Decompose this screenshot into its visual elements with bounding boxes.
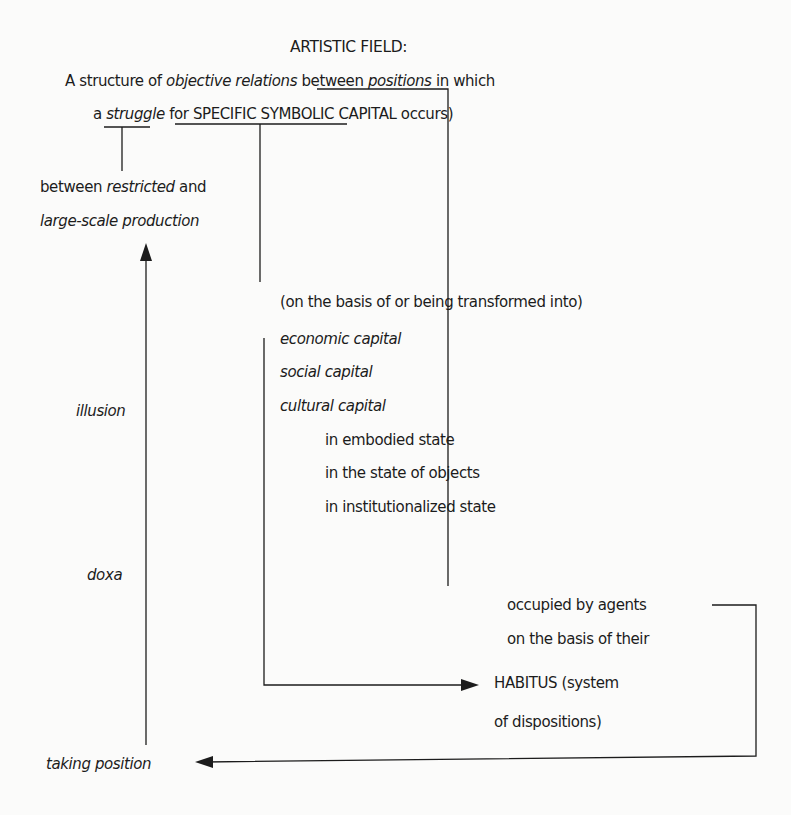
struggle-branch-line-1: between restricted and xyxy=(40,177,206,197)
definition-text: for xyxy=(165,105,193,123)
definition-text: occurs) xyxy=(397,105,454,123)
arrow-left-icon xyxy=(195,756,213,768)
definition-line-2: a struggle for SPECIFIC SYMBOLIC CAPITAL… xyxy=(93,104,453,124)
definition-text: between xyxy=(297,72,368,90)
taking-position-label: taking position xyxy=(46,754,151,774)
symbolic-capital-term: SPECIFIC SYMBOLIC CAPITAL xyxy=(193,105,397,123)
arrow-right-icon xyxy=(461,679,479,691)
dispositions-text: of dispositions) xyxy=(494,712,601,732)
objects-state: in the state of objects xyxy=(325,463,480,483)
capital-intro: (on the basis of or being transformed in… xyxy=(280,292,582,312)
institutionalized-state: in institutionalized state xyxy=(325,497,496,517)
basis-of-their: on the basis of their xyxy=(507,629,649,649)
definition-emphasis: objective relations xyxy=(166,72,297,90)
arrow-up-icon xyxy=(140,243,152,261)
economic-capital: economic capital xyxy=(280,329,401,349)
doxa-label: doxa xyxy=(87,565,122,585)
embodied-state: in embodied state xyxy=(325,430,454,450)
social-capital: social capital xyxy=(280,362,372,382)
cultural-capital: cultural capital xyxy=(280,396,386,416)
habitus-term: HABITUS (system xyxy=(494,673,619,693)
struggle-text: between xyxy=(40,178,106,196)
definition-text: A structure of xyxy=(65,72,166,90)
definition-text: a xyxy=(93,105,106,123)
positions-term: positions xyxy=(368,72,432,90)
definition-text: in which xyxy=(432,72,495,90)
struggle-text: and xyxy=(175,178,206,196)
occupied-by-agents: occupied by agents xyxy=(507,595,647,615)
struggle-term: struggle xyxy=(106,105,165,123)
illusion-label: illusion xyxy=(76,401,125,421)
diagram-title: ARTISTIC FIELD: xyxy=(290,37,407,57)
struggle-branch-line-2: large-scale production xyxy=(40,211,199,231)
definition-line-1: A structure of objective relations betwe… xyxy=(65,71,495,91)
restricted-term: restricted xyxy=(106,178,174,196)
